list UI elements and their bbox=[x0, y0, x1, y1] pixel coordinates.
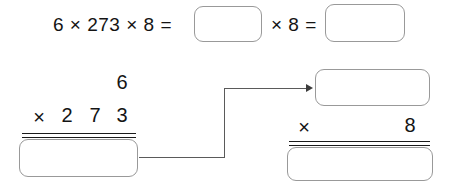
left-problem-digit-tens: 7 bbox=[85, 105, 105, 125]
equation-answer-box-2[interactable] bbox=[325, 4, 405, 42]
connector-segment-bottom bbox=[139, 157, 225, 158]
right-problem-answer-box[interactable] bbox=[287, 147, 433, 181]
equation-lead-expression: 6 × 273 × 8 = bbox=[53, 15, 172, 34]
connector-segment-vertical bbox=[224, 88, 225, 157]
left-problem-operator: × bbox=[29, 107, 49, 127]
right-problem-operator: × bbox=[294, 117, 314, 137]
equation-answer-box-1[interactable] bbox=[194, 6, 262, 42]
left-problem-carry-digit: 6 bbox=[112, 72, 132, 92]
left-problem-digit-ones: 3 bbox=[112, 105, 132, 125]
connector-segment-top bbox=[224, 88, 308, 89]
left-problem-digit-hundreds: 2 bbox=[57, 105, 77, 125]
worksheet-canvas: 6 × 273 × 8 = × 8 = 6 × 2 7 3 × 8 bbox=[0, 0, 459, 195]
right-problem-rule bbox=[289, 141, 430, 146]
right-problem-multiplier: 8 bbox=[400, 115, 420, 135]
equation-middle-operator: × 8 = bbox=[271, 15, 317, 34]
right-problem-product-box[interactable] bbox=[315, 69, 430, 106]
left-problem-answer-box[interactable] bbox=[19, 139, 138, 177]
left-problem-rule bbox=[22, 133, 136, 138]
connector-arrow-icon bbox=[306, 84, 313, 92]
